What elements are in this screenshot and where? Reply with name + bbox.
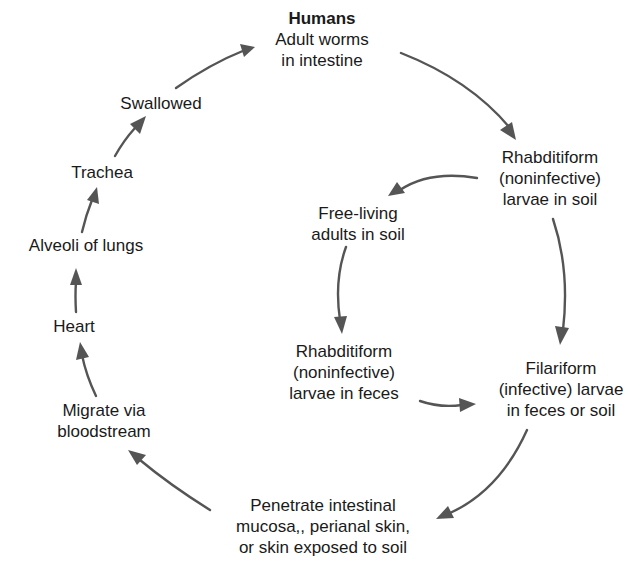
- node-rhabditiform-feces: Rhabditiform (noninfective) larvae in fe…: [289, 341, 399, 404]
- arrow-rhabditiform-soil-to-free-living: [388, 176, 477, 196]
- arrow-swallowed-to-humans: [176, 44, 255, 88]
- node-rhabditiform-soil: Rhabditiform (noninfective) larvae in so…: [499, 147, 601, 210]
- node-text: Penetrate intestinal: [236, 495, 410, 516]
- node-text: Alveoli of lungs: [29, 235, 143, 256]
- node-text: Free-living: [311, 203, 405, 224]
- strongyloides-life-cycle-diagram: Humans Adult worms in intestine Rhabditi…: [0, 0, 641, 578]
- arrow-alveoli-to-trachea: [82, 187, 99, 232]
- arrows-layer: [0, 0, 641, 578]
- node-text: Migrate via: [57, 400, 151, 421]
- arrow-trachea-to-swallowed: [115, 116, 146, 156]
- node-humans: Humans Adult worms in intestine: [275, 8, 369, 71]
- node-text: in feces or soil: [499, 400, 624, 421]
- node-trachea: Trachea: [71, 162, 133, 183]
- node-text: (noninfective): [499, 168, 601, 189]
- node-text: adults in soil: [311, 224, 405, 245]
- node-migrate: Migrate via bloodstream: [57, 400, 151, 442]
- arrow-rhabditiform-soil-to-filariform: [553, 219, 569, 345]
- node-text: Heart: [53, 316, 95, 337]
- arrow-heart-to-alveoli: [70, 268, 82, 312]
- node-text: Swallowed: [120, 93, 201, 114]
- node-free-living: Free-living adults in soil: [311, 203, 405, 245]
- node-text: Rhabditiform: [289, 341, 399, 362]
- node-penetrate: Penetrate intestinal mucosa,, perianal s…: [236, 495, 410, 558]
- arrow-filariform-to-penetrate: [436, 430, 527, 519]
- node-text: Filariform: [499, 358, 624, 379]
- arrow-humans-to-rhabditiform-soil: [401, 53, 516, 140]
- node-text: (infective) larvae: [499, 379, 624, 400]
- arrow-penetrate-to-migrate: [128, 450, 210, 510]
- node-humans-title: Humans: [275, 8, 369, 29]
- node-text: or skin exposed to soil: [236, 537, 410, 558]
- node-text: larvae in soil: [499, 189, 601, 210]
- node-text: larvae in feces: [289, 383, 399, 404]
- arrow-free-living-to-rhabditiform-feces: [334, 247, 347, 334]
- node-text: in intestine: [275, 50, 369, 71]
- node-heart: Heart: [53, 316, 95, 337]
- node-swallowed: Swallowed: [120, 93, 201, 114]
- node-text: (noninfective): [289, 362, 399, 383]
- node-filariform: Filariform (infective) larvae in feces o…: [499, 358, 624, 421]
- arrow-rhabditiform-feces-to-filariform: [420, 398, 476, 412]
- node-text: mucosa,, perianal skin,: [236, 516, 410, 537]
- node-text: bloodstream: [57, 421, 151, 442]
- node-text: Trachea: [71, 162, 133, 183]
- node-text: Adult worms: [275, 29, 369, 50]
- arrow-migrate-to-heart: [76, 342, 96, 396]
- node-text: Rhabditiform: [499, 147, 601, 168]
- node-alveoli: Alveoli of lungs: [29, 235, 143, 256]
